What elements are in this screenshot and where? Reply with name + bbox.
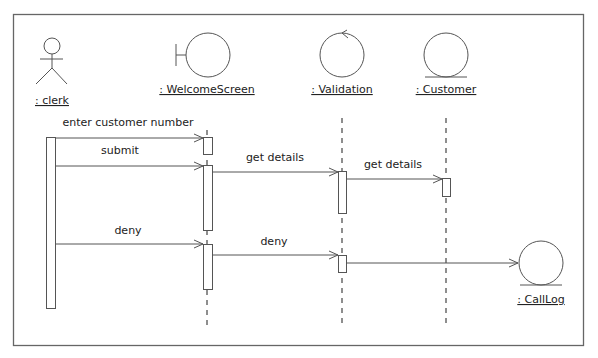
welcome-activation-2: [204, 166, 213, 231]
validation-participant: : Validation: [311, 30, 373, 96]
customer-activation: [443, 179, 451, 197]
message-label-deny-1: deny: [114, 224, 142, 237]
message-deny-2: [212, 251, 338, 259]
validation-activation-1: [339, 172, 347, 214]
message-label-submit: submit: [101, 144, 139, 157]
customer-label: : Customer: [416, 83, 477, 96]
welcome-screen-label: : WelcomeScreen: [159, 83, 254, 96]
entity-icon: [424, 33, 468, 77]
message-label-enter-customer-number: enter customer number: [62, 116, 194, 129]
calllog-participant: : CallLog: [517, 241, 564, 306]
message-label-deny-2: deny: [260, 235, 288, 248]
welcome-activation-3: [204, 245, 213, 290]
clerk-activation: [47, 138, 56, 309]
boundary-icon: [176, 33, 230, 77]
control-icon: [320, 30, 364, 77]
actor-icon: [36, 38, 67, 84]
diagram-frame: [14, 15, 584, 346]
validation-label: : Validation: [311, 83, 373, 96]
message-label-get-details-1: get details: [246, 151, 304, 164]
customer-participant: : Customer: [416, 33, 477, 96]
calllog-label: : CallLog: [517, 293, 564, 306]
message-submit: [56, 162, 203, 170]
message-enter-customer-number: [56, 134, 203, 142]
sequence-diagram: : clerk : WelcomeScreen : Validation : C…: [0, 0, 598, 358]
message-get-details-2: [346, 175, 442, 183]
clerk-participant: : clerk: [35, 38, 70, 107]
entity-icon: [519, 241, 563, 285]
message-label-get-details-2: get details: [364, 158, 422, 171]
validation-activation-2: [339, 256, 347, 273]
message-get-details-1: [212, 168, 338, 176]
welcome-activation-1: [204, 138, 213, 155]
message-to-calllog: [346, 259, 518, 267]
message-deny-1: [56, 240, 203, 248]
clerk-label: : clerk: [35, 94, 70, 107]
welcome-screen-participant: : WelcomeScreen: [159, 33, 254, 96]
